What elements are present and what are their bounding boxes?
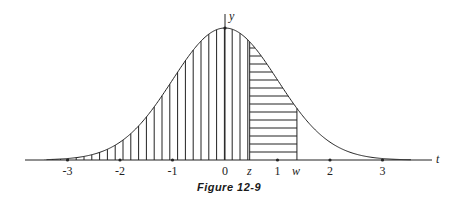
- tick-label: -1: [168, 164, 178, 175]
- vertical-hatch-region: [45, 28, 250, 160]
- figure-caption: Figure 12-9: [0, 181, 458, 193]
- horizontal-hatch-region: [250, 48, 297, 160]
- tick-label: -2: [115, 164, 125, 175]
- tick-dot: [66, 158, 69, 161]
- normal-curve-figure: -3-2-10123 t y z w: [0, 0, 458, 175]
- peak-dot: [223, 26, 226, 29]
- tick-label: 3: [380, 164, 386, 175]
- tick-dot: [118, 158, 121, 161]
- t-axis-label: t: [436, 152, 440, 166]
- w-label: w: [292, 164, 300, 175]
- tick-label: 2: [327, 164, 333, 175]
- tick-label: 0: [222, 164, 228, 175]
- tick-dot: [381, 158, 384, 161]
- tick-dot: [171, 158, 174, 161]
- tick-label: -3: [63, 164, 73, 175]
- bell-curve: [47, 28, 411, 160]
- tick-dot: [276, 158, 279, 161]
- z-label: z: [246, 164, 252, 175]
- tick-label: 1: [275, 164, 281, 175]
- y-axis-label: y: [228, 9, 235, 23]
- tick-dot: [328, 158, 331, 161]
